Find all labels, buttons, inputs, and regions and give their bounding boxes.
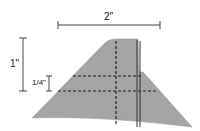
height-dimension-line: [19, 38, 27, 91]
offset-label: 1/4": [32, 79, 46, 87]
width-label: 2": [104, 12, 113, 22]
width-dimension-line: [58, 21, 160, 29]
height-label: 1": [10, 59, 19, 69]
offset-dimension-bracket: [46, 76, 52, 91]
pattern-diagram: [0, 0, 200, 131]
pattern-shape: [32, 39, 192, 127]
